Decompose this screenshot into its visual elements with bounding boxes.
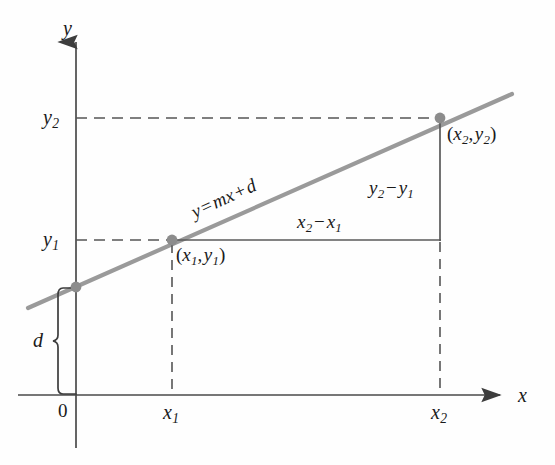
x-tick-label-x1: x1 <box>163 402 179 426</box>
x1-subscript: 1 <box>172 411 179 426</box>
x2-subscript: 2 <box>440 411 447 426</box>
run-second-base: x <box>327 211 335 232</box>
y2-subscript: 2 <box>52 116 59 131</box>
point-marker-x2y2 <box>435 113 446 124</box>
y2-base: y <box>43 106 52 128</box>
p2-x-base: x <box>453 123 461 144</box>
y1-subscript: 1 <box>52 238 59 253</box>
paren-close: ) <box>490 123 496 144</box>
x2-base: x <box>431 401 440 423</box>
y-tick-label-y2: y2 <box>43 107 59 131</box>
p1-y-base: y <box>204 244 212 265</box>
run-operator: − <box>312 211 327 232</box>
intercept-label-d: d <box>33 330 43 350</box>
x1-base: x <box>163 401 172 423</box>
run-second-sub: 1 <box>335 220 342 235</box>
x-tick-label-x2: x2 <box>431 402 447 426</box>
p1-y-sub: 1 <box>212 253 219 268</box>
rise-second-sub: 1 <box>407 186 414 201</box>
paren-close: ) <box>219 244 225 265</box>
rise-label: y2−y1 <box>369 178 414 201</box>
p2-y-base: y <box>475 123 483 144</box>
linear-function-figure: y x 0 y2 y1 x1 x2 d y=mx+d (x1, y1) (x2,… <box>0 0 555 465</box>
run-label: x2−x1 <box>297 212 342 235</box>
point-label-x2y2: (x2, y2) <box>447 124 496 147</box>
x-axis-label: x <box>518 385 527 405</box>
y1-base: y <box>43 228 52 250</box>
intercept-brace <box>53 288 76 394</box>
p1-x-base: x <box>182 244 190 265</box>
point-label-x1y1: (x1, y1) <box>176 245 225 268</box>
y-axis-label: y <box>63 18 72 38</box>
p2-y-sub: 2 <box>483 132 490 147</box>
figure-canvas <box>0 0 555 465</box>
rise-operator: − <box>384 177 399 198</box>
origin-label: 0 <box>58 401 68 420</box>
y-tick-label-y1: y1 <box>43 229 59 253</box>
rise-second-base: y <box>399 177 407 198</box>
point-marker-y-intercept <box>71 282 82 293</box>
